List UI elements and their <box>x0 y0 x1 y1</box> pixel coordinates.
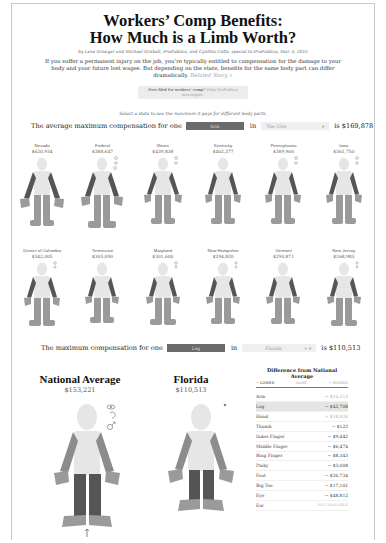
tab-same[interactable]: SAME <box>296 381 307 385</box>
intro-text: If you suffer a permanent injury on the … <box>42 58 344 80</box>
difference-row[interactable]: Thumb− $122 <box>256 422 348 432</box>
instruction-text: Select a state to see the maximum it pay… <box>12 111 374 116</box>
state-card[interactable]: District of Columbia $342,005 <box>12 248 72 331</box>
eye-icon <box>107 405 115 409</box>
state-body-figure <box>146 399 256 529</box>
difference-row[interactable]: Hand+ $18,026 <box>256 412 348 422</box>
tab-lower[interactable]: − LOWER <box>256 381 274 385</box>
chevron-down-icon: ▾ <box>322 124 324 129</box>
states-grid-row-1: Nevada $620,934 Federal $388,647 <box>12 143 374 232</box>
difference-panel: Difference from National Average − LOWER… <box>256 368 348 511</box>
chevron-down-icon: ▾ <box>309 346 311 351</box>
eye-icon <box>224 404 227 407</box>
states-grid-row-2: District of Columbia $342,005 Tennessee … <box>12 248 374 331</box>
state-card[interactable]: Kentucky $402,277 <box>193 143 253 232</box>
difference-row[interactable]: Big Toe− $17,101 <box>256 481 348 491</box>
state-card[interactable]: Illinois $439,838 <box>133 143 193 232</box>
national-average-panel: National Average $153,221 <box>28 373 132 394</box>
body-part-select[interactable]: Arm <box>186 122 244 130</box>
page-title: Workers’ Comp Benefits: How Much is a Li… <box>12 12 374 46</box>
national-body-figure <box>32 399 142 539</box>
body-figure-icon <box>317 154 371 232</box>
difference-row[interactable]: Foot− $26,734 <box>256 471 348 481</box>
body-part-select[interactable]: Leg <box>167 344 225 352</box>
body-figure-icon <box>75 259 129 331</box>
difference-row[interactable]: Middle Finger− $6,474 <box>256 442 348 452</box>
body-figure-icon <box>317 259 371 331</box>
state-card[interactable]: Nevada $620,934 <box>12 143 72 232</box>
state-total: is $110,513 <box>321 344 360 352</box>
body-figure-icon <box>136 154 190 232</box>
difference-row[interactable]: Index Finger− $9,442 <box>256 432 348 442</box>
state-card[interactable]: New Hampshire $294,820 <box>193 248 253 331</box>
ear-icon <box>110 412 115 418</box>
related-story-link[interactable]: Related Story » <box>190 72 232 78</box>
male-symbol-icon <box>107 422 115 430</box>
body-figure-icon <box>136 259 190 331</box>
average-selector-row: The average maximum compensation for one… <box>12 122 375 130</box>
body-figure-icon <box>75 154 129 232</box>
state-card[interactable]: Maryland $301,600 <box>133 248 193 331</box>
body-figure-icon <box>256 154 310 232</box>
state-select[interactable]: Florida × ▾ <box>242 344 316 352</box>
clear-icon[interactable]: × <box>304 346 308 351</box>
state-card[interactable]: Iowa $361,750 <box>314 143 374 232</box>
state-panel: Florida $110,513 <box>156 373 226 394</box>
difference-row[interactable]: Eye− $48,812 <box>256 491 348 501</box>
state-card[interactable]: Federal $388,647 <box>72 143 132 232</box>
difference-tabs: − LOWER SAME + HIGHER <box>256 381 348 388</box>
body-figure-icon <box>15 259 69 331</box>
difference-row[interactable]: Ring Finger− $8,343 <box>256 452 348 462</box>
body-figure-icon <box>196 259 250 331</box>
body-figure-icon <box>256 259 310 331</box>
state-card[interactable]: New Jersey $268,983 <box>314 248 374 331</box>
tab-higher[interactable]: + HIGHER <box>328 381 348 385</box>
interactive-frame: Workers’ Comp Benefits: How Much is a Li… <box>11 3 375 540</box>
difference-row[interactable]: Arm+ $16,213 <box>256 392 348 402</box>
state-card[interactable]: Tennessee $305,090 <box>72 248 132 331</box>
average-total: is $169,878 <box>334 122 373 130</box>
body-figure-icon <box>15 154 69 232</box>
state-selector-row: The maximum compensation for one Leg in … <box>12 344 375 352</box>
difference-row[interactable]: Leg− $42,708 <box>256 402 348 412</box>
region-select[interactable]: The USA ▾ <box>261 122 329 130</box>
arrow-up-icon <box>85 529 89 537</box>
body-figure-icon <box>196 154 250 232</box>
byline: by Lena Groeger and Michael Grabell, Pro… <box>12 49 374 54</box>
state-card[interactable]: Vermont $290,871 <box>253 248 313 331</box>
difference-row[interactable]: Pinky− $3,008 <box>256 461 348 471</box>
difference-row[interactable]: EarNOT AVAILABLE <box>256 501 348 511</box>
state-card[interactable]: Pennsylvania $389,900 <box>253 143 313 232</box>
callout-pill: Ever filed for workers’ comp? Help ProPu… <box>138 86 248 99</box>
